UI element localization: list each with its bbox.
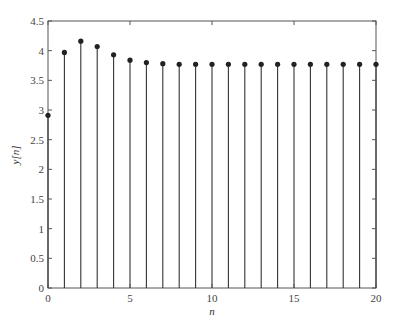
tick-labels: 0510152000.511.522.533.544.5 bbox=[30, 15, 382, 304]
y-tick-label: 4 bbox=[39, 45, 45, 57]
y-tick-label: 3.5 bbox=[30, 74, 44, 86]
y-tick-label: 0 bbox=[39, 282, 45, 294]
stem-marker bbox=[193, 62, 198, 67]
x-tick-label: 5 bbox=[127, 292, 133, 304]
x-tick-label: 20 bbox=[371, 292, 383, 304]
x-tick-label: 0 bbox=[45, 292, 51, 304]
stem-marker bbox=[275, 62, 280, 67]
stem-marker bbox=[242, 62, 247, 67]
x-axis-label: n bbox=[209, 305, 215, 317]
y-tick-label: 2.5 bbox=[30, 134, 44, 146]
stem-marker bbox=[373, 62, 378, 67]
stem-marker bbox=[62, 50, 67, 55]
y-tick-label: 1 bbox=[39, 223, 45, 235]
stem-marker bbox=[95, 44, 100, 49]
stem-plot: 0510152000.511.522.533.544.5 n y[n] bbox=[0, 0, 396, 330]
y-axis-label: y[n] bbox=[9, 146, 21, 166]
stem-marker bbox=[226, 62, 231, 67]
stem-marker bbox=[341, 62, 346, 67]
stem-marker bbox=[160, 61, 165, 66]
stem-marker bbox=[357, 62, 362, 67]
stem-marker bbox=[78, 39, 83, 44]
y-tick-label: 0.5 bbox=[30, 252, 44, 264]
stem-marker bbox=[209, 62, 214, 67]
stem-marker bbox=[111, 52, 116, 57]
stem-marker bbox=[144, 60, 149, 65]
x-tick-label: 10 bbox=[207, 292, 219, 304]
y-tick-label: 4.5 bbox=[30, 15, 44, 27]
stem-marker bbox=[127, 58, 132, 63]
y-tick-label: 1.5 bbox=[30, 193, 44, 205]
stem-marker bbox=[45, 113, 50, 118]
data-stems bbox=[45, 39, 378, 288]
stem-marker bbox=[177, 62, 182, 67]
x-tick-label: 15 bbox=[289, 292, 301, 304]
y-tick-label: 2 bbox=[39, 163, 45, 175]
y-tick-label: 3 bbox=[39, 104, 45, 116]
stem-marker bbox=[259, 62, 264, 67]
stem-marker bbox=[324, 62, 329, 67]
stem-marker bbox=[291, 62, 296, 67]
stem-marker bbox=[308, 62, 313, 67]
